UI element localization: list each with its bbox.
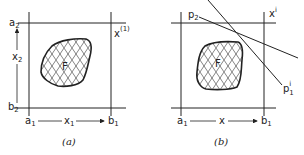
figure: F a2 x2 b2 a1 x1 b1 x(1) (a) F p2 xi pi1… bbox=[0, 0, 304, 155]
region-label: F bbox=[215, 58, 221, 69]
caption-a: (a) bbox=[62, 136, 76, 147]
panel-a: F a2 x2 b2 a1 x1 b1 x(1) (a) bbox=[8, 12, 130, 147]
panel-b: F p2 xi pi1 a1 x b1 (b) bbox=[171, 0, 298, 147]
point-x1-label: x(1) bbox=[114, 25, 130, 39]
p1-label: pi1 bbox=[283, 80, 294, 97]
a2-label: a2 bbox=[9, 17, 20, 30]
b1-label: b1 bbox=[261, 115, 272, 128]
p2-label: p2 bbox=[188, 9, 199, 22]
region-label: F bbox=[62, 61, 68, 72]
x-label: x bbox=[219, 115, 225, 126]
a1-label: a1 bbox=[177, 115, 188, 128]
b1-label: b1 bbox=[108, 115, 119, 128]
a1-label: a1 bbox=[25, 115, 36, 128]
point-xi-label: xi bbox=[269, 6, 277, 19]
caption-b: (b) bbox=[214, 136, 228, 147]
